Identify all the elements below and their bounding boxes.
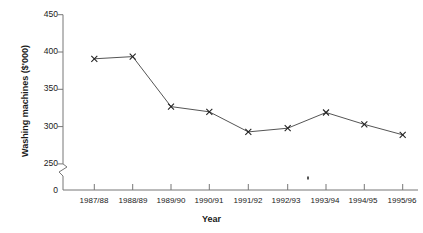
data-point-1995-96 [400, 132, 406, 138]
data-point-1993-94 [323, 110, 329, 116]
plot-area [0, 0, 423, 233]
data-point-1994-95 [361, 121, 367, 127]
data-line-washing-machines [94, 57, 402, 135]
y-axis-break-symbol [59, 164, 67, 176]
line-chart: Washing machines ($'000) Year 450 400 35… [0, 0, 423, 233]
scan-speck-artifact [307, 177, 309, 180]
data-markers [91, 54, 405, 138]
y-axis [57, 15, 67, 190]
x-axis [63, 184, 418, 190]
